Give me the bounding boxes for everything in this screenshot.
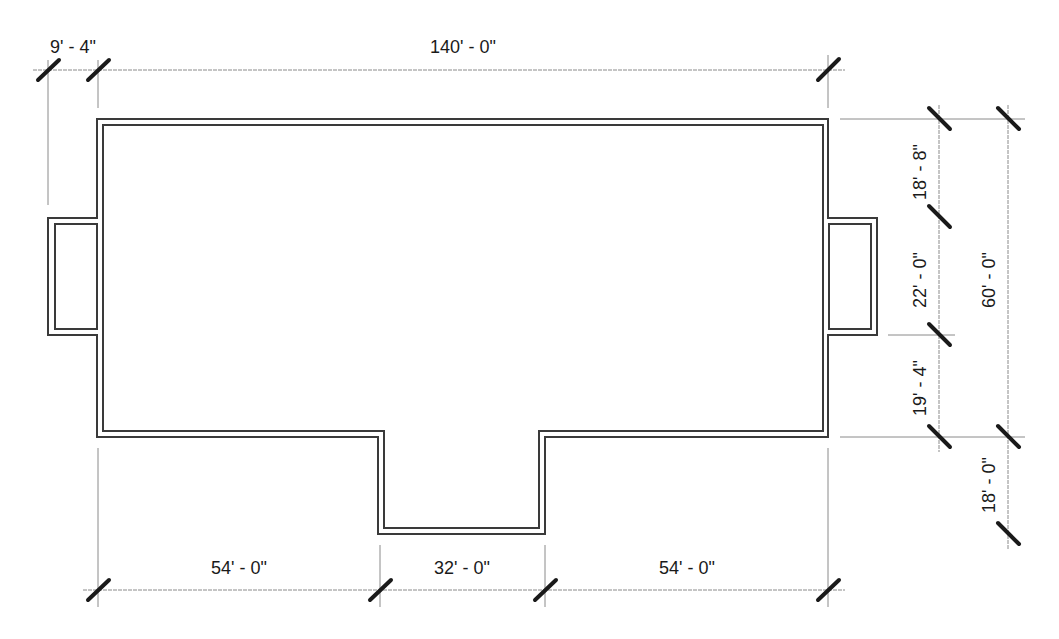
dimension-label-right-lower-segment: 19' - 4" bbox=[910, 360, 930, 416]
dimension-label-left-bump-depth: 9' - 4" bbox=[50, 37, 96, 57]
dimension-label-overall-depth: 60' - 0" bbox=[979, 252, 999, 308]
dimension-label-right-top-segment: 18' - 8" bbox=[910, 144, 930, 200]
dimension-label-bottom-right-segment: 54' - 0" bbox=[659, 558, 715, 578]
dimension-label-overall-width: 140' - 0" bbox=[430, 37, 496, 57]
right-outer-dimension-string: 60' - 0" 18' - 0" bbox=[979, 105, 1019, 550]
right-bump-inner bbox=[829, 224, 871, 329]
inner-wall-line bbox=[103, 125, 823, 528]
dimension-label-bottom-bump-depth: 18' - 0" bbox=[979, 457, 999, 513]
top-dimension-string: 9' - 4" 140' - 0" bbox=[33, 37, 845, 205]
dimension-label-bottom-center-bump: 32' - 0" bbox=[434, 558, 490, 578]
dimension-label-bottom-left-segment: 54' - 0" bbox=[211, 558, 267, 578]
building-walls bbox=[48, 119, 877, 534]
left-bump-inner bbox=[55, 224, 97, 329]
floor-plan-drawing: 9' - 4" 140' - 0" 54' - 0" 32' - 0" 54' … bbox=[0, 0, 1059, 639]
dimension-label-right-bump-width: 22' - 0" bbox=[910, 252, 930, 308]
outer-wall-line bbox=[48, 119, 877, 534]
